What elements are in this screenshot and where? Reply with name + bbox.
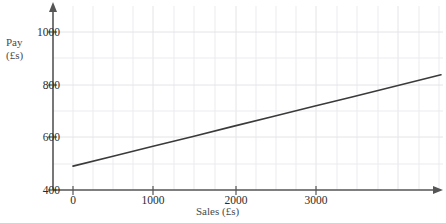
y-axis-title-line2: (£s) bbox=[6, 49, 23, 62]
chart-container: Pay (£s) Sales (£s) 1000 800 600 400 0 1… bbox=[0, 0, 446, 223]
grid-lines-vertical bbox=[73, 6, 439, 190]
x-axis bbox=[53, 186, 443, 194]
y-tick-label-1000: 1000 bbox=[8, 26, 60, 38]
y-axis-title: Pay (£s) bbox=[6, 36, 23, 61]
x-tick-label-3000: 3000 bbox=[296, 194, 336, 206]
x-tick-label-2000: 2000 bbox=[216, 194, 256, 206]
x-axis-title: Sales (£s) bbox=[196, 205, 239, 218]
line-chart-plot bbox=[0, 0, 446, 223]
x-tick-label-0: 0 bbox=[53, 194, 93, 206]
grid-lines-horizontal bbox=[53, 32, 443, 164]
x-tick-label-1000: 1000 bbox=[133, 194, 173, 206]
y-tick-label-600: 600 bbox=[8, 131, 60, 143]
y-tick-label-800: 800 bbox=[8, 79, 60, 91]
series-line bbox=[73, 75, 441, 166]
data-series-pay-vs-sales bbox=[73, 75, 441, 166]
